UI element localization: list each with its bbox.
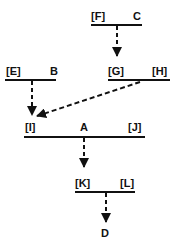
node-a: [I] A [J] — [24, 121, 145, 137]
label-l: [L] — [120, 177, 134, 189]
node-kl: [K] [L] — [75, 177, 135, 192]
diagram-canvas: [F] C [G] [H] [E] B [I] A [J] [K] [L] D — [0, 0, 179, 246]
label-i: [I] — [25, 121, 36, 133]
label-g: [G] — [108, 65, 124, 77]
label-k: [K] — [75, 177, 91, 189]
label-c: C — [133, 10, 141, 22]
label-e: [E] — [6, 65, 21, 77]
label-a: A — [80, 121, 88, 133]
label-d: D — [101, 227, 109, 239]
label-b: B — [50, 65, 58, 77]
label-f: [F] — [91, 10, 105, 22]
label-h: [H] — [152, 65, 168, 77]
node-b: [E] B — [5, 65, 58, 80]
arrow-gh-to-i — [37, 82, 140, 116]
node-c: [F] C — [91, 10, 142, 25]
node-gh: [G] [H] — [108, 65, 170, 80]
label-j: [J] — [128, 121, 142, 133]
